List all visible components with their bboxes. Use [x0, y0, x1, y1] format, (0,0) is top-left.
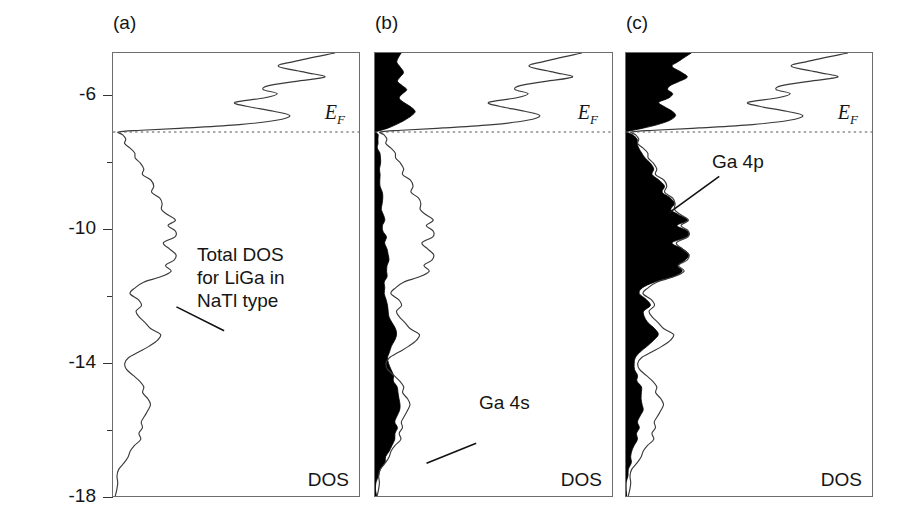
dos-axis-label-c: DOS: [821, 469, 862, 491]
annotation-ga-4s: Ga 4s: [479, 391, 530, 414]
annotation-total-dos: Total DOS for LiGa in NaTl type: [197, 243, 285, 312]
y-tick-label: -10: [50, 218, 96, 237]
dos-fill-b: [375, 53, 415, 496]
panel-a: EF Total DOS for LiGa in NaTl type DOS: [112, 52, 360, 497]
fermi-level-label-a: EF: [325, 101, 345, 128]
annotation-ga-4p: Ga 4p: [712, 150, 764, 173]
panel-tag-c: (c): [626, 12, 648, 34]
dos-fill-c: [626, 53, 691, 496]
fermi-level-label-b: EF: [578, 101, 598, 128]
panel-b-plot: [375, 53, 612, 496]
y-tick-label: -6: [50, 84, 96, 103]
annotation-leader-line: [427, 443, 477, 463]
dos-curve-b: [377, 53, 582, 496]
y-tick-label: -14: [50, 352, 96, 371]
panel-c-plot: [626, 53, 872, 496]
panel-b: EF Ga 4s DOS: [374, 52, 613, 497]
panel-c: EF Ga 4p DOS: [625, 52, 873, 497]
panel-tag-a: (a): [113, 12, 136, 34]
y-tick-label: -18: [50, 486, 96, 505]
dos-figure: Energy (eV) -6-10-14-18 EF Total DOS for…: [0, 0, 908, 519]
fermi-level-label-c: EF: [838, 101, 858, 128]
y-tick-mark: [103, 497, 113, 498]
annotation-leader-line: [670, 176, 720, 212]
dos-axis-label-a: DOS: [308, 469, 349, 491]
panel-tag-b: (b): [375, 12, 398, 34]
dos-axis-label-b: DOS: [561, 469, 602, 491]
